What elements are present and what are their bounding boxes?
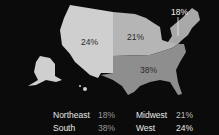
legend-west-value: 24% [176, 123, 193, 133]
region-hawaii [83, 87, 87, 91]
region-hawaii-small [79, 85, 81, 87]
label-south: 38% [140, 65, 157, 75]
region-alaska [28, 56, 62, 86]
legend-northeast-name: Northeast [53, 110, 98, 120]
legend-west-name: West [136, 123, 176, 133]
us-regions-map: 24% 21% 18% 38% [0, 0, 219, 100]
legend-midwest-name: Midwest [136, 110, 176, 120]
legend-south-value: 38% [98, 123, 136, 133]
label-west: 24% [81, 37, 98, 47]
legend-midwest-value: 21% [176, 110, 193, 120]
label-midwest: 21% [127, 32, 144, 42]
legend-south-name: South [53, 123, 98, 133]
label-northeast: 18% [171, 7, 188, 17]
legend: Northeast 18% Midwest 21% South 38% West… [53, 108, 213, 134]
legend-northeast-value: 18% [98, 110, 136, 120]
